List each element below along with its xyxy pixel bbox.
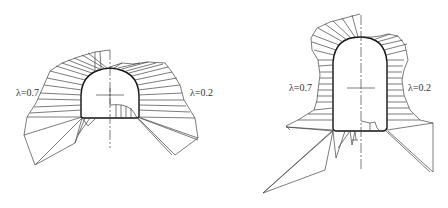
right-panel-label-right: λ=0.2 (408, 82, 431, 93)
left-panel-label-left: λ=0.7 (16, 87, 39, 98)
left-stress-diagram (0, 0, 448, 208)
left-panel-label-right: λ=0.2 (190, 87, 213, 98)
right-tunnel-outline (333, 37, 387, 131)
right-panel-label-left: λ=0.7 (289, 82, 312, 93)
